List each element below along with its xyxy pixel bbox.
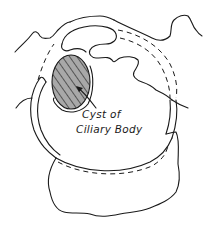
tissue-outline-top: [70, 16, 114, 22]
sclera-outer-arc: [31, 78, 56, 158]
label-ciliary-body: Ciliary Body: [76, 123, 143, 135]
iris-inner-contour: [62, 44, 86, 52]
tissue-strand-right: [172, 100, 188, 108]
choroid-dashed-left: [38, 44, 54, 80]
ciliary-body-cyst: [52, 55, 90, 109]
eye-diagram: Cyst of Ciliary Body: [0, 0, 214, 229]
sclera-right-inner-arc: [166, 100, 170, 134]
choroid-dashed-right-outer: [118, 30, 177, 98]
choroid-dashed-right-inner: [120, 38, 170, 98]
tissue-strand-left: [16, 98, 32, 108]
tissue-outline-right: [114, 15, 202, 40]
label-cyst-of: Cyst of: [82, 108, 123, 120]
choroid-dashed-bottom: [58, 146, 168, 174]
sclera-left-tip: [40, 77, 46, 82]
sclera-bottom-arc: [56, 138, 172, 171]
